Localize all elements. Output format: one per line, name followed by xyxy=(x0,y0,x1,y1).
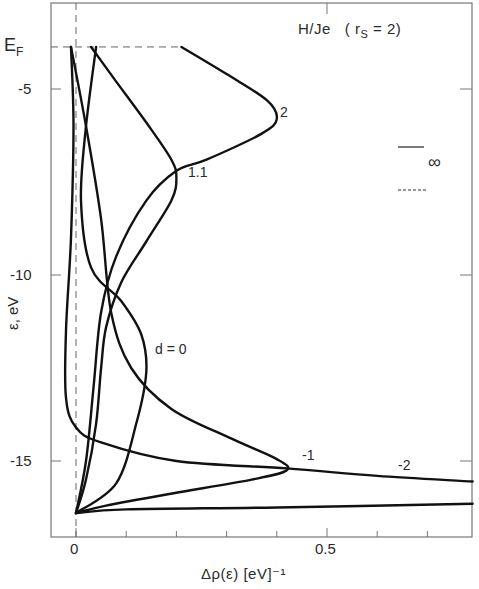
y-axis-label: ε, eV xyxy=(4,297,21,330)
curve-label-d0: d = 0 xyxy=(155,341,187,357)
curve-label-1-1: 1.1 xyxy=(188,164,207,180)
curve-d-2 xyxy=(65,47,473,482)
curve-d0 xyxy=(76,47,146,513)
curve-d1-1 xyxy=(76,47,176,513)
fermi-level-label: EF xyxy=(4,35,23,59)
y-tick-label-minus10: -10 xyxy=(10,266,32,283)
data-curves xyxy=(65,47,473,513)
legend-infinity-label: ∞ xyxy=(428,152,441,173)
curve-label-2: 2 xyxy=(280,104,288,120)
curve-label-minus2: -2 xyxy=(398,457,410,473)
y-tick-label-minus5: -5 xyxy=(18,80,31,97)
chart-title: H/Je ( rS = 2) xyxy=(298,20,401,40)
x-axis-label: Δρ(ε) [eV]⁻¹ xyxy=(201,565,286,583)
x-tick-label-0: 0 xyxy=(70,540,78,557)
chart-figure xyxy=(0,0,479,589)
x-tick-label-0.5: 0.5 xyxy=(315,540,336,557)
curve-label-minus1: -1 xyxy=(302,447,314,463)
curve-d xyxy=(76,504,473,513)
legend xyxy=(398,147,427,190)
y-tick-label-minus15: -15 xyxy=(10,452,32,469)
